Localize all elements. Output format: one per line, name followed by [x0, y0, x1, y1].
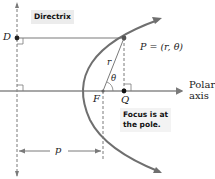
focus-note-line1: Focus is at	[123, 110, 168, 120]
point-F	[101, 89, 104, 92]
point-D	[15, 36, 20, 41]
label-r: r	[107, 57, 111, 67]
label-Q: Q	[121, 94, 129, 105]
label-p: p	[55, 144, 61, 155]
label-F: F	[93, 93, 100, 104]
parabola-diagram	[0, 0, 215, 179]
label-P: P = (r, θ)	[140, 41, 183, 52]
point-Q	[122, 89, 127, 94]
polar-axis-label-line1: Polar	[189, 79, 215, 90]
polar-axis-label-line2: axis	[189, 90, 215, 101]
focus-note: Focus is at the pole.	[120, 108, 171, 132]
point-P	[122, 36, 127, 41]
focus-note-line2: the pole.	[123, 120, 168, 130]
label-theta: θ	[111, 73, 116, 83]
polar-axis-label: Polar axis	[189, 79, 215, 101]
directrix-label: Directrix	[31, 10, 74, 24]
label-D: D	[3, 31, 11, 42]
